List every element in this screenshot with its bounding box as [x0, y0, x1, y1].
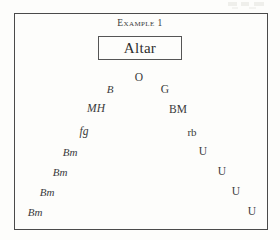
diagram-node-u2: U [218, 166, 226, 178]
diagram-node-bm5: Bm [28, 207, 43, 218]
diagram-node-b: B [107, 84, 114, 95]
scan-artifact [254, 2, 264, 6]
diagram-node-fg: fg [80, 126, 89, 138]
diagram-node-o: O [135, 72, 143, 84]
diagram-node-u4: U [248, 206, 256, 218]
diagram-node-u3: U [232, 186, 240, 198]
figure-caption: Example 1 [0, 18, 280, 28]
diagram-node-bm2: Bm [63, 147, 78, 158]
diagram-node-bm4: Bm [40, 187, 55, 198]
scan-artifact [241, 2, 249, 6]
altar-box: Altar [98, 36, 182, 60]
figure-root: Example 1 Altar OBGMHBMfgrbBmUBmUBmUBmU [0, 0, 280, 240]
diagram-node-bm1: BM [169, 104, 187, 116]
diagram-node-rb: rb [187, 127, 196, 138]
diagram-node-u1: U [199, 146, 207, 158]
altar-label: Altar [124, 41, 156, 56]
scan-artifact [249, 7, 256, 9]
diagram-node-mh: MH [87, 103, 105, 115]
scan-artifact [232, 7, 238, 9]
diagram-node-bm3: Bm [53, 167, 68, 178]
diagram-node-g: G [161, 84, 169, 96]
scan-artifact [228, 2, 237, 6]
